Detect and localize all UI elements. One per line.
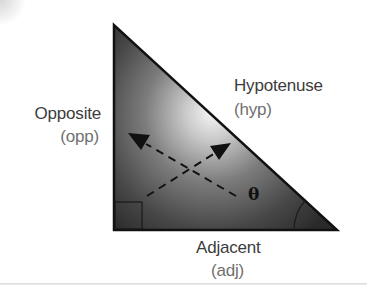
hypotenuse-abbr-label: (hyp) [234, 100, 272, 120]
right-triangle-diagram [0, 0, 367, 297]
adjacent-abbr-label: (adj) [211, 261, 244, 281]
bottom-divider [0, 283, 367, 285]
hypotenuse-label: Hypotenuse [234, 76, 323, 96]
adjacent-label: Adjacent [196, 238, 261, 258]
theta-angle-label: θ [248, 184, 259, 204]
opposite-label: Opposite [35, 104, 101, 124]
triangle [114, 25, 337, 230]
opposite-abbr-label: (opp) [60, 127, 99, 147]
